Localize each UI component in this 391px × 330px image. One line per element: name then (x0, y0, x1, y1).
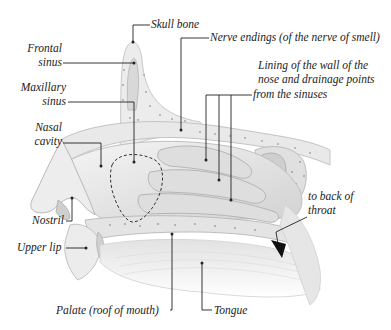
label-frontal-sinus-1: Frontal (10, 42, 62, 55)
label-lining-1: Lining of the wall of the (258, 59, 368, 72)
label-nerve-endings: Nerve endings (of the nerve of smell) (210, 31, 380, 44)
label-to-back-1: to back of (308, 190, 353, 203)
tongue-shape (100, 239, 320, 297)
label-frontal-sinus-2: sinus (10, 56, 62, 69)
label-tongue: Tongue (214, 304, 247, 317)
label-lining-3: from the sinuses (253, 88, 327, 101)
label-maxillary-1: Maxillary (0, 81, 66, 94)
label-to-back-2: throat (308, 204, 336, 217)
label-palate: Palate (roof of mouth) (56, 304, 159, 317)
label-nasal-cavity-2: cavity (10, 135, 62, 148)
label-lining-2: nose and drainage points (258, 73, 375, 86)
nasal-anatomy-diagram: Skull bone Nerve endings (of the nerve o… (0, 0, 391, 330)
label-maxillary-2: sinus (0, 95, 66, 108)
label-nasal-cavity-1: Nasal (10, 121, 62, 134)
label-skull-bone: Skull bone (151, 18, 199, 31)
upper-lip-shape (65, 224, 100, 280)
label-upper-lip: Upper lip (17, 241, 61, 254)
label-nostril: Nostril (10, 214, 64, 227)
